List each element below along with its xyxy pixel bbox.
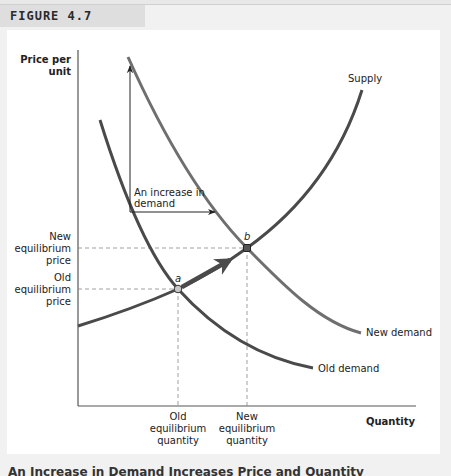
new-price-tick-2: equilibrium — [15, 243, 72, 254]
y-axis-label-line1: Price per — [20, 54, 71, 65]
new-qty-tick-1: New — [236, 411, 258, 422]
supply-label: Supply — [348, 73, 382, 84]
annotation-line2: demand — [134, 198, 175, 209]
new-price-tick-1: New — [49, 231, 71, 242]
new-price-tick-3: price — [46, 255, 71, 266]
point-b-marker — [244, 245, 251, 252]
point-a-marker — [174, 285, 182, 293]
x-axis-label: Quantity — [366, 416, 415, 427]
old-demand-curve — [100, 120, 313, 368]
figure-caption: An Increase in Demand Increases Price an… — [8, 465, 448, 476]
old-qty-tick-2: equilibrium — [150, 423, 207, 434]
old-demand-label: Old demand — [318, 363, 379, 374]
old-qty-tick-3: quantity — [157, 435, 199, 446]
point-a-label: a — [175, 273, 181, 284]
new-demand-label: New demand — [366, 327, 432, 338]
supply-curve — [78, 90, 362, 326]
point-b-label: b — [244, 231, 250, 242]
y-axis-label-line2: unit — [49, 66, 72, 77]
annotation-line1: An increase in — [134, 187, 205, 198]
old-price-tick-3: price — [46, 296, 71, 307]
equilibrium-shift-arrow — [182, 260, 230, 287]
old-price-tick-2: equilibrium — [15, 284, 72, 295]
new-qty-tick-3: quantity — [226, 435, 268, 446]
old-price-tick-1: Old — [54, 272, 71, 283]
supply-demand-chart: a b Price per unit Quantity New equilibr… — [0, 0, 451, 476]
old-qty-tick-1: Old — [170, 411, 187, 422]
new-qty-tick-2: equilibrium — [219, 423, 276, 434]
